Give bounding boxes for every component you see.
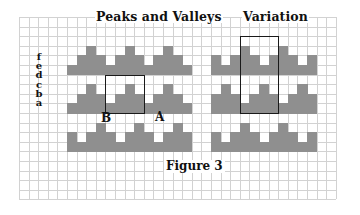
grid-line-vertical [57, 17, 58, 199]
pattern-cell [307, 103, 317, 113]
grid-line-vertical [326, 17, 327, 199]
panel-title-variation: Variation [242, 10, 309, 23]
grid-line-horizontal [19, 84, 336, 85]
grid-line-vertical [336, 17, 337, 199]
pattern-cell [182, 142, 192, 152]
grid-line-vertical [38, 17, 39, 199]
pattern-cell [307, 142, 317, 152]
pattern-cell [182, 65, 192, 75]
point-label-a: A [155, 111, 164, 123]
grid-line-horizontal [19, 190, 336, 191]
point-label-b: B [101, 112, 111, 124]
panel-title-peaks-and-valleys: Peaks and Valleys [95, 10, 223, 23]
row-label-a: a [35, 98, 43, 107]
grid-line-horizontal [19, 180, 336, 181]
grid-line-vertical [19, 17, 20, 199]
grid-line-horizontal [19, 199, 336, 200]
pattern-cell [307, 65, 317, 75]
grid-line-vertical [29, 17, 30, 199]
grid-line-horizontal [19, 27, 336, 28]
grid-line-horizontal [19, 36, 336, 37]
highlight-box [240, 36, 279, 114]
row-labels: f e d c b a [35, 52, 43, 107]
figure-caption: Figure 3 [164, 160, 225, 173]
highlight-box [105, 75, 144, 114]
pattern-cell [182, 103, 192, 113]
grid-line-vertical [48, 17, 49, 199]
